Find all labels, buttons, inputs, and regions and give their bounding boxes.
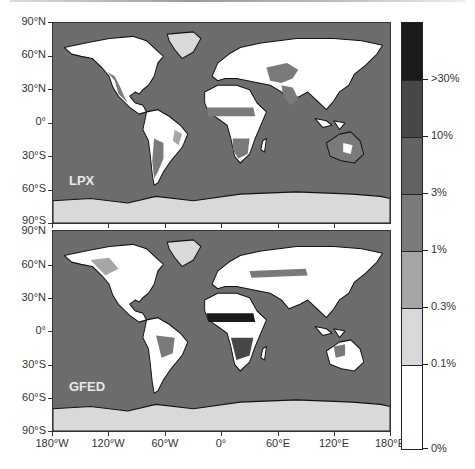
x-tick-label: 60°W xyxy=(140,437,190,449)
colorbar-tick xyxy=(423,193,428,194)
x-tick-mark xyxy=(52,432,53,436)
colorbar-bin-0.3-1 xyxy=(402,251,422,308)
colorbar-label: >30% xyxy=(431,72,459,84)
y-tick-mark xyxy=(48,365,52,366)
map-panel-lpx: LPX xyxy=(52,22,391,224)
colorbar-label: 1% xyxy=(431,243,447,255)
colorbar-tick xyxy=(423,250,428,251)
y-tick-mark xyxy=(48,123,52,124)
y-tick-mark xyxy=(48,156,52,157)
x-tick-label: 120°W xyxy=(83,437,133,449)
y-tick-label: 30°S xyxy=(2,149,46,161)
x-tick-mark xyxy=(165,224,166,228)
y-tick-label: 30°S xyxy=(2,358,46,370)
y-tick-label: 60°N xyxy=(2,48,46,60)
x-tick-mark xyxy=(390,432,391,436)
colorbar-bin-10-30 xyxy=(402,80,422,137)
y-tick-mark xyxy=(48,22,52,23)
y-tick-label: 90°N xyxy=(2,224,46,236)
y-tick-mark xyxy=(48,89,52,90)
colorbar-bin-0-0.1 xyxy=(402,365,422,449)
x-tick-label: 60°E xyxy=(253,437,303,449)
x-tick-mark xyxy=(108,224,109,228)
x-tick-label: 120°E xyxy=(309,437,359,449)
colorbar-bin-gt30 xyxy=(402,23,422,80)
y-tick-label: 90°N xyxy=(2,15,46,27)
x-tick-mark xyxy=(165,432,166,436)
colorbar-label: 3% xyxy=(431,186,447,198)
colorbar-tick xyxy=(423,307,428,308)
colorbar-tick xyxy=(423,136,428,137)
y-tick-label: 0° xyxy=(2,115,46,127)
y-tick-label: 90°S xyxy=(2,424,46,436)
x-tick-mark xyxy=(221,224,222,228)
y-tick-mark xyxy=(48,398,52,399)
x-tick-mark xyxy=(278,432,279,436)
x-tick-mark xyxy=(108,432,109,436)
y-tick-mark xyxy=(48,56,52,57)
x-tick-mark xyxy=(278,224,279,228)
top-rule xyxy=(10,0,465,2)
y-tick-mark xyxy=(48,298,52,299)
colorbar xyxy=(401,22,423,450)
y-tick-mark xyxy=(48,265,52,266)
colorbar-bin-0.1-0.3 xyxy=(402,308,422,365)
colorbar-bin-3-10 xyxy=(402,137,422,194)
colorbar-bin-1-3 xyxy=(402,194,422,251)
x-tick-mark xyxy=(221,432,222,436)
y-tick-label: 30°N xyxy=(2,82,46,94)
colorbar-label: 10% xyxy=(431,129,453,141)
y-tick-label: 60°N xyxy=(2,258,46,270)
colorbar-tick xyxy=(423,364,428,365)
y-tick-label: 60°S xyxy=(2,182,46,194)
x-tick-label: 0° xyxy=(196,437,246,449)
colorbar-label: 0% xyxy=(431,442,447,454)
map-panel-gfed: GFED xyxy=(52,230,391,432)
y-tick-label: 0° xyxy=(2,324,46,336)
colorbar-tick xyxy=(423,448,428,449)
x-tick-mark xyxy=(52,224,53,228)
colorbar-label: 0.1% xyxy=(431,357,456,369)
y-tick-label: 30°N xyxy=(2,291,46,303)
world-map-gfed xyxy=(53,231,390,431)
y-tick-mark xyxy=(48,331,52,332)
colorbar-tick xyxy=(423,79,428,80)
y-tick-mark xyxy=(48,190,52,191)
colorbar-label: 0.3% xyxy=(431,300,456,312)
x-tick-label: 180°W xyxy=(27,437,77,449)
y-tick-label: 60°S xyxy=(2,391,46,403)
x-tick-mark xyxy=(334,432,335,436)
panel-label-lpx: LPX xyxy=(69,173,94,188)
panel-label-gfed: GFED xyxy=(69,379,105,394)
world-map-lpx xyxy=(53,23,390,223)
x-tick-mark xyxy=(334,224,335,228)
